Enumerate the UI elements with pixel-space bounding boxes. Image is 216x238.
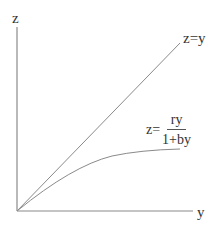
fraction-denominator: 1+by <box>162 130 191 148</box>
line-label: z=y <box>183 31 206 46</box>
equation-prefix: z= <box>146 122 160 138</box>
fraction: ry 1+by <box>162 112 191 148</box>
curve-equation: z= ry 1+by <box>146 112 191 148</box>
curve-saturating <box>17 149 180 211</box>
y-axis-label: y <box>197 205 205 220</box>
fraction-numerator: ry <box>167 112 187 130</box>
z-axis-label: z <box>12 11 19 26</box>
